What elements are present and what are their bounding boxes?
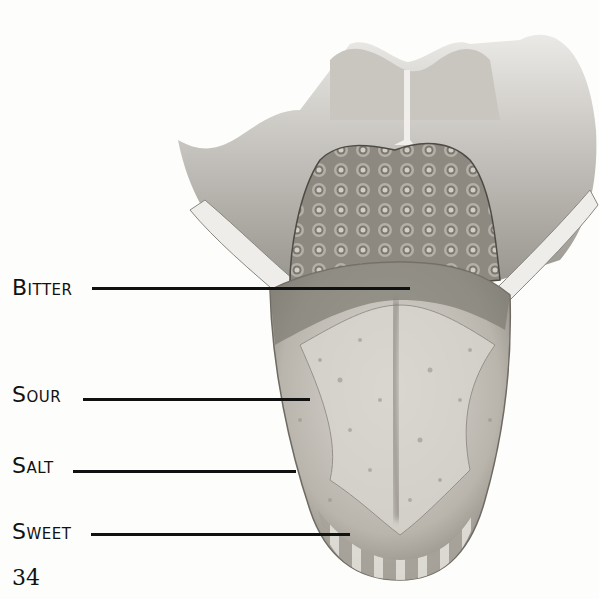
- page-number: 34: [12, 565, 40, 590]
- tongue-taste-map-diagram: Bitter Sour Salt Sweet 34: [0, 0, 599, 599]
- label-sour: Sour: [12, 384, 61, 406]
- leader-line-sweet: [91, 533, 350, 536]
- label-sweet: Sweet: [12, 521, 71, 543]
- label-bitter: Bitter: [12, 277, 72, 299]
- tongue-illustration: [0, 0, 599, 599]
- leader-line-bitter: [92, 287, 410, 290]
- label-salt: Salt: [12, 455, 54, 477]
- leader-line-sour: [83, 398, 310, 401]
- leader-line-salt: [73, 470, 296, 473]
